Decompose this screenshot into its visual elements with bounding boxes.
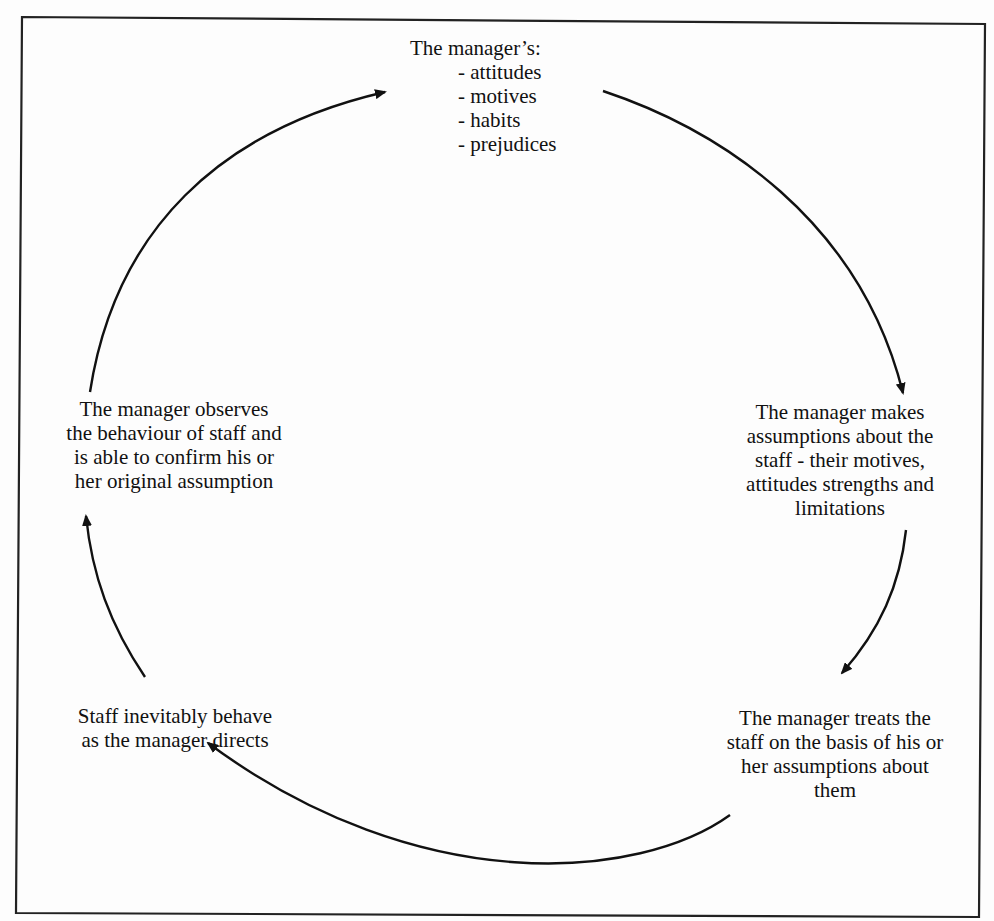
arrow-top-to-right-upper-icon [603,91,903,393]
node-manager-traits: The manager’s: - attitudes - motives - h… [410,36,557,156]
node-text-line: The manager makes [710,400,970,424]
node-text-line: staff - their motives, [710,448,970,472]
node-text-line: her assumptions about [697,754,973,778]
arrow-right-upper-to-right-lower-icon [842,530,906,673]
arrow-left-upper-to-top-icon [90,92,385,392]
arrow-left-lower-to-left-upper-icon [86,516,145,677]
arrow-right-lower-to-left-lower-icon [208,743,730,863]
node-staff-behave: Staff inevitably behave as the manager d… [40,704,310,752]
node-text-line: Staff inevitably behave [40,704,310,728]
bullet-item: - motives [410,84,557,108]
node-text-line: assumptions about the [710,424,970,448]
node-text-line: is able to confirm his or [34,445,314,469]
node-text-line: The manager observes [34,397,314,421]
bullet-item: - habits [410,108,557,132]
node-text-line: attitudes strengths and [710,472,970,496]
node-text-line: them [697,778,973,802]
node-manager-observes: The manager observes the behaviour of st… [34,397,314,493]
bullet-item: - attitudes [410,60,557,84]
node-manager-assumptions: The manager makes assumptions about the … [710,400,970,520]
node-text-line: staff on the basis of his or [697,730,973,754]
diagram-canvas: The manager’s: - attitudes - motives - h… [0,0,994,921]
node-text-line: the behaviour of staff and [34,421,314,445]
bullet-item: - prejudices [410,132,557,156]
node-manager-treats-staff: The manager treats the staff on the basi… [697,706,973,802]
node-title: The manager’s: [410,36,557,60]
node-text-line: The manager treats the [697,706,973,730]
node-text-line: as the manager directs [40,728,310,752]
node-text-line: her original assumption [34,469,314,493]
node-text-line: limitations [710,496,970,520]
